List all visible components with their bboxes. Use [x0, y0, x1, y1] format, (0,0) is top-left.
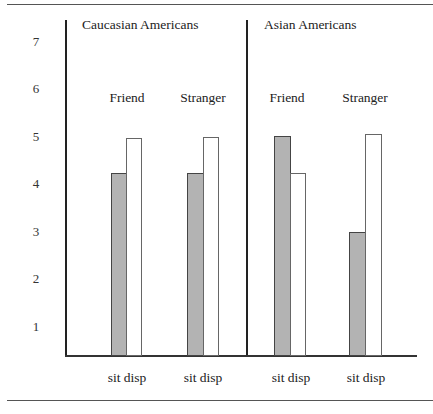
label-asian-friend: Friend [252, 90, 322, 106]
bar-caucasian-friend-disp [126, 138, 142, 356]
bar-caucasian-friend-sit [111, 173, 127, 356]
y-tick-2: 2 [26, 272, 46, 286]
bar-asian-friend-sit [274, 136, 291, 356]
label-asian-stranger: Stranger [330, 90, 400, 106]
xlabel-asian-friend: sit disp [256, 370, 326, 386]
y-tick-7: 7 [26, 35, 46, 49]
bar-asian-friend-disp [290, 173, 306, 356]
panel-title-asian: Asian Americans [264, 17, 357, 33]
bar-asian-stranger-sit [349, 232, 366, 356]
bottom-rule [7, 400, 433, 401]
y-axis [65, 20, 67, 357]
panel-divider [246, 20, 248, 357]
bar-caucasian-stranger-disp [203, 137, 219, 356]
xlabel-caucasian-stranger: sit disp [168, 370, 238, 386]
bar-asian-stranger-disp [365, 134, 382, 356]
xlabel-asian-stranger: sit disp [331, 370, 401, 386]
y-tick-5: 5 [26, 130, 46, 144]
y-tick-1: 1 [26, 320, 46, 334]
label-caucasian-stranger: Stranger [168, 90, 238, 106]
panel-title-caucasian: Caucasian Americans [82, 17, 199, 33]
xlabel-caucasian-friend: sit disp [92, 370, 162, 386]
y-tick-4: 4 [26, 177, 46, 191]
top-rule [7, 4, 433, 5]
label-caucasian-friend: Friend [92, 90, 162, 106]
bar-caucasian-stranger-sit [187, 173, 204, 356]
y-tick-6: 6 [26, 82, 46, 96]
y-tick-3: 3 [26, 225, 46, 239]
